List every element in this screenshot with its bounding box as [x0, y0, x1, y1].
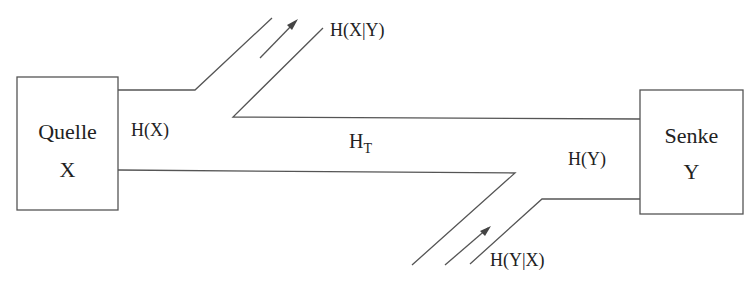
- sink-title: Senke: [640, 122, 743, 150]
- source-title: Quelle: [17, 118, 118, 146]
- source-entropy-label: H(X): [131, 120, 169, 141]
- sink-box-label: Senke Y: [640, 122, 743, 186]
- equivocation-label: H(X|Y): [330, 20, 385, 41]
- source-box-label: Quelle X: [17, 118, 118, 184]
- irrelevance-label: H(Y|X): [490, 250, 545, 271]
- transinformation-label: HT: [349, 130, 372, 157]
- sink-variable: Y: [640, 158, 743, 186]
- transinformation-symbol: H: [349, 130, 363, 152]
- transinformation-subscript: T: [363, 141, 372, 156]
- equivocation-outer-line: [118, 18, 272, 90]
- sink-entropy-label: H(Y): [568, 149, 606, 170]
- main-upper-line: [233, 28, 640, 119]
- source-variable: X: [17, 156, 118, 184]
- main-lower-line: [118, 170, 515, 265]
- arrowhead-icon: [480, 226, 491, 236]
- irrelevance-arrow: [445, 228, 488, 265]
